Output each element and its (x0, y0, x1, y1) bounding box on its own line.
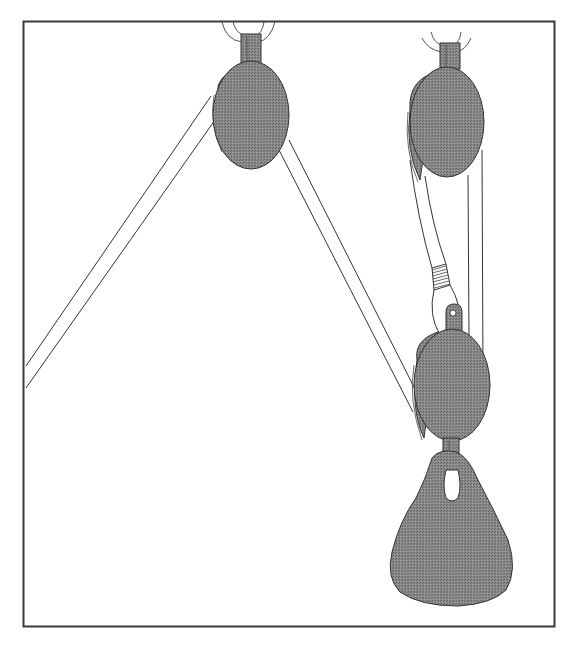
pulley-diagram: Line drawing of a block-and-tackle: a ro… (0, 0, 577, 646)
rope-pull-left-segment (25, 95, 222, 388)
movable-pulley (412, 329, 490, 441)
shackle-pin-icon (450, 310, 456, 316)
rope-pull-diagonal-segment (279, 140, 418, 412)
fixed-pulley-left (213, 34, 289, 169)
fixed-pulley-right (407, 43, 484, 182)
weight-hook-hole (444, 470, 460, 501)
diagram-canvas (0, 0, 577, 646)
weight (390, 451, 512, 606)
